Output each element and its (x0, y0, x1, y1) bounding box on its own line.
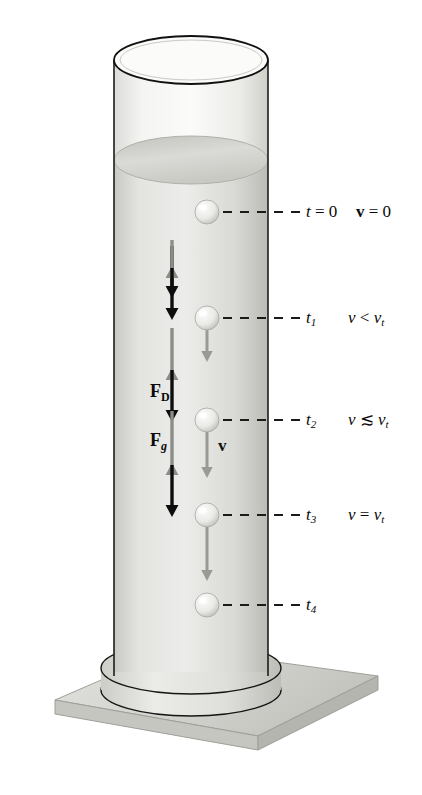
sphere-t3 (195, 503, 219, 527)
time-label-t2: t2 (306, 411, 316, 430)
sphere-highlight-t3 (199, 507, 207, 513)
time-label-t0: t = 0 (306, 203, 337, 220)
drag-force-label: FD (150, 381, 170, 405)
sphere-t4 (195, 593, 219, 617)
sphere-body-t2 (195, 408, 219, 432)
sphere-t2 (195, 408, 219, 432)
figure-canvas (0, 0, 422, 795)
sphere-highlight-t2 (199, 412, 207, 418)
fluid-column (114, 160, 268, 672)
fluid-surface (114, 136, 268, 184)
drag-force-symbol: F (150, 381, 161, 401)
speed-label-t3: v = vt (348, 506, 384, 525)
time-label-t3: t3 (306, 506, 316, 525)
gravity-force-subscript: g (161, 439, 167, 453)
speed-label-t1: v < vt (348, 309, 384, 328)
velocity-vector-label: v (218, 436, 227, 456)
sphere-t1 (195, 306, 219, 330)
sphere-body-t0 (195, 200, 219, 224)
gravity-force-symbol: F (150, 430, 161, 450)
drag-force-subscript: D (161, 390, 170, 404)
sphere-highlight-t1 (199, 310, 207, 316)
time-label-t1: t1 (306, 309, 316, 328)
gravity-force-label: Fg (150, 430, 167, 454)
sphere-highlight-t4 (199, 597, 207, 603)
cylinder-top-rim (114, 36, 268, 84)
speed-label-t2: v ≲ vt (348, 411, 389, 430)
sphere-t0 (195, 200, 219, 224)
glass-cylinder (114, 36, 268, 676)
falling-sphere-terminal-velocity-figure: FD Fg v t = 0v = 0t1v < vtt2v ≲ vtt3v = … (0, 0, 422, 795)
speed-label-t0: v = 0 (356, 203, 391, 220)
sphere-body-t4 (195, 593, 219, 617)
sphere-body-t1 (195, 306, 219, 330)
sphere-body-t3 (195, 503, 219, 527)
time-label-t4: t4 (306, 596, 316, 615)
sphere-highlight-t0 (199, 204, 207, 210)
